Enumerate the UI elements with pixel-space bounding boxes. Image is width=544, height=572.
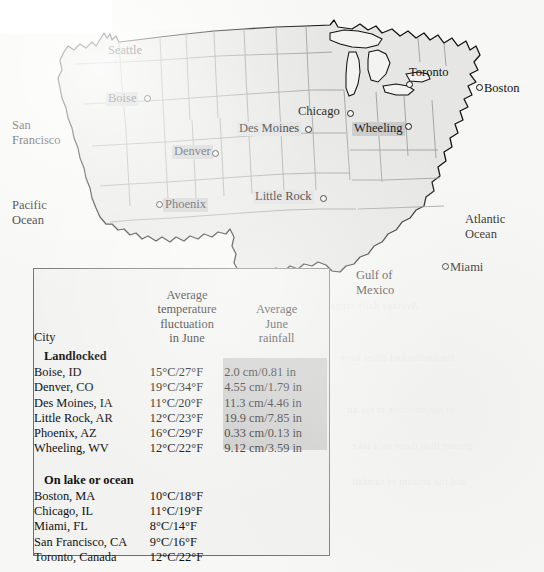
cell-temperature: 8°C/14°F — [150, 519, 225, 534]
cell-city: Des Moines, IA — [34, 396, 150, 411]
table-body: LandlockedBoise, ID15°C/27°F2.0 cm/0.81 … — [34, 345, 329, 565]
us-map-svg — [0, 0, 544, 300]
table-row: Toronto, Canada12°C/22°F — [34, 550, 329, 565]
map-label-seattle: Seattle — [108, 44, 142, 58]
map-label-wheeling: Wheeling — [352, 122, 405, 136]
cell-rainfall: 19.9 cm/7.85 in — [224, 411, 329, 426]
map-label-boise: Boise — [106, 92, 138, 106]
map-label-phoenix: Phoenix — [163, 198, 208, 212]
cell-city: Phoenix, AZ — [34, 426, 150, 441]
city-marker-phoenix — [156, 201, 163, 208]
cell-rainfall — [224, 535, 329, 550]
city-marker-boise — [144, 95, 151, 102]
map-label-gulf-of-mexico: Gulf ofMexico — [356, 268, 394, 298]
cell-temperature: 9°C/16°F — [150, 535, 225, 550]
usa-landmass-path — [58, 20, 480, 276]
map-label-miami: Miami — [450, 261, 483, 275]
cell-city: Miami, FL — [34, 519, 150, 534]
city-marker-des-moines — [305, 126, 312, 133]
map-label-boston: Boston — [484, 82, 519, 96]
column-header-city: City — [34, 269, 150, 345]
cell-rainfall — [224, 519, 329, 534]
table-row: Denver, CO19°C/34°F4.55 cm/1.79 in — [34, 380, 329, 395]
cell-rainfall: 2.0 cm/0.81 in — [224, 365, 329, 380]
cell-city: Chicago, IL — [34, 504, 150, 519]
climate-data-table: City Averagetemperaturefluctuationin Jun… — [33, 268, 330, 556]
cell-rainfall: 9.12 cm/3.59 in — [224, 441, 329, 456]
table-row: Boise, ID15°C/27°F2.0 cm/0.81 in — [34, 365, 329, 380]
cell-city: Boise, ID — [34, 365, 150, 380]
map-label-denver: Denver — [172, 145, 213, 159]
cell-rainfall — [224, 504, 329, 519]
table-group-spacer — [34, 457, 329, 469]
city-marker-toronto — [406, 81, 413, 88]
table-row: Miami, FL8°C/14°F — [34, 519, 329, 534]
cell-city: Boston, MA — [34, 489, 150, 504]
cell-city: Little Rock, AR — [34, 411, 150, 426]
city-marker-chicago — [347, 110, 354, 117]
group-label: Landlocked — [34, 345, 329, 365]
table-row: Little Rock, AR12°C/23°F19.9 cm/7.85 in — [34, 411, 329, 426]
city-marker-denver — [212, 150, 219, 157]
us-map: SeattleBoiseDenverPhoenixDes MoinesLittl… — [0, 0, 544, 300]
map-landmass — [58, 20, 480, 276]
map-label-des-moines: Des Moines — [237, 122, 301, 136]
cell-temperature: 11°C/19°F — [150, 504, 225, 519]
cell-city: Toronto, Canada — [34, 550, 150, 565]
map-label-san-francisco: SanFrancisco — [12, 118, 61, 148]
map-label-toronto: Toronto — [409, 66, 448, 80]
table-row: Des Moines, IA11°C/20°F11.3 cm/4.46 in — [34, 396, 329, 411]
cell-temperature: 12°C/22°F — [150, 441, 225, 456]
column-header-rainfall-text: AverageJunerainfall — [256, 302, 297, 344]
table-row: Phoenix, AZ16°C/29°F0.33 cm/0.13 in — [34, 426, 329, 441]
cell-rainfall: 11.3 cm/4.46 in — [224, 396, 329, 411]
table-row: Wheeling, WV12°C/22°F9.12 cm/3.59 in — [34, 441, 329, 456]
cell-rainfall — [224, 489, 329, 504]
table-group-header-on-lake-or-ocean: On lake or ocean — [34, 469, 329, 489]
table-header-row: City Averagetemperaturefluctuationin Jun… — [34, 269, 329, 345]
table-group-header-landlocked: Landlocked — [34, 345, 329, 365]
cell-temperature: 12°C/23°F — [150, 411, 225, 426]
cell-temperature: 16°C/29°F — [150, 426, 225, 441]
city-marker-little-rock — [320, 195, 327, 202]
map-label-chicago: Chicago — [298, 105, 340, 119]
table-row: Boston, MA10°C/18°F — [34, 489, 329, 504]
scanned-page: the atmosphere is a way to rise and the … — [0, 0, 544, 572]
map-label-little-rock: Little Rock — [253, 190, 314, 204]
cell-rainfall: 4.55 cm/1.79 in — [224, 380, 329, 395]
spacer-cell — [34, 457, 329, 469]
city-marker-wheeling — [405, 123, 412, 130]
city-marker-miami — [442, 263, 449, 270]
cell-temperature: 15°C/27°F — [150, 365, 225, 380]
cell-temperature: 11°C/20°F — [150, 396, 225, 411]
cell-temperature: 12°C/22°F — [150, 550, 225, 565]
table: City Averagetemperaturefluctuationin Jun… — [34, 269, 329, 565]
cell-city: San Francisco, CA — [34, 535, 150, 550]
cell-city: Wheeling, WV — [34, 441, 150, 456]
cell-rainfall: 0.33 cm/0.13 in — [224, 426, 329, 441]
cell-rainfall — [224, 550, 329, 565]
column-header-temperature-text: Averagetemperaturefluctuationin June — [157, 288, 216, 345]
column-header-rainfall: AverageJunerainfall — [224, 269, 329, 345]
city-marker-boston — [476, 84, 483, 91]
table-row: Chicago, IL11°C/19°F — [34, 504, 329, 519]
cell-temperature: 19°C/34°F — [150, 380, 225, 395]
map-label-pacific-ocean: PacificOcean — [12, 198, 47, 228]
cell-city: Denver, CO — [34, 380, 150, 395]
cell-temperature: 10°C/18°F — [150, 489, 225, 504]
group-label: On lake or ocean — [34, 469, 329, 489]
map-label-atlantic-ocean: AtlanticOcean — [465, 212, 505, 242]
table-row: San Francisco, CA9°C/16°F — [34, 535, 329, 550]
column-header-temperature: Averagetemperaturefluctuationin June — [150, 269, 225, 345]
